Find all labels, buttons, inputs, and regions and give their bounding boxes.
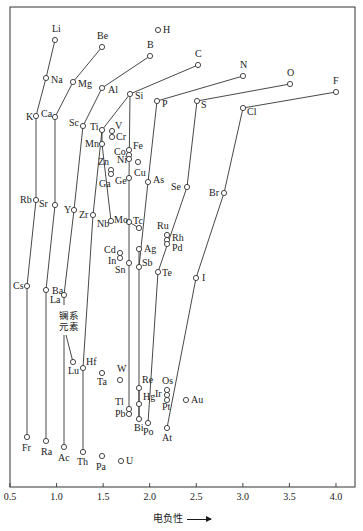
element-label: Zr	[79, 209, 89, 220]
lanthanide-annotation: 镧系元素	[57, 310, 81, 332]
element-label: Pa	[96, 461, 107, 472]
data-point-pd	[164, 241, 169, 246]
data-point-ac	[61, 444, 66, 449]
data-point-cd	[117, 250, 122, 255]
element-label: Cd	[104, 244, 116, 255]
data-point-bi	[136, 416, 141, 421]
element-label: Fe	[133, 140, 144, 151]
element-label: C	[195, 48, 202, 59]
data-point-la	[61, 292, 66, 297]
data-point-sc	[80, 123, 85, 128]
data-point-tl	[126, 406, 131, 411]
data-point-as	[145, 179, 150, 184]
data-point-sn	[126, 260, 131, 265]
x-tick-label: 1.5	[97, 491, 110, 502]
electronegativity-chart: HLiBeBCNOFNaMgAlSiPSClKCaScTiVCrMnFeCoNi…	[0, 0, 363, 531]
data-point-al	[99, 85, 104, 90]
element-label: Sr	[39, 198, 49, 209]
element-label: Nb	[97, 218, 109, 229]
element-label: Rb	[20, 194, 32, 205]
element-label: S	[201, 99, 207, 110]
series-line	[148, 84, 290, 423]
element-label: Ge	[115, 175, 127, 186]
element-label: Ca	[41, 108, 53, 119]
element-label: Ru	[157, 220, 169, 231]
data-point-pb	[126, 411, 131, 416]
data-point-u	[118, 458, 123, 463]
data-point-mn	[99, 141, 104, 146]
element-label: Cl	[247, 106, 257, 117]
data-point-zr	[90, 212, 95, 217]
data-point-po	[145, 420, 150, 425]
element-label: N	[240, 59, 247, 70]
data-point-s	[194, 98, 199, 103]
data-point-ca	[52, 114, 57, 119]
element-label: Ac	[58, 452, 70, 463]
data-point-te	[155, 269, 160, 274]
series-line	[83, 65, 198, 452]
data-point-b	[147, 53, 152, 58]
data-point-ti	[99, 127, 104, 132]
data-point-au	[183, 397, 188, 402]
data-point-cs	[24, 283, 29, 288]
element-label: Mn	[85, 138, 99, 149]
x-tick-label: 1.0	[50, 491, 63, 502]
element-label: Hf	[86, 356, 97, 367]
data-point-ru	[164, 232, 169, 237]
data-point-at	[164, 425, 169, 430]
data-point-ta	[99, 370, 104, 375]
element-label: B	[147, 39, 154, 50]
data-point-f	[333, 89, 338, 94]
data-point-c	[195, 62, 200, 67]
element-label: O	[287, 67, 294, 78]
data-point-i	[193, 275, 198, 280]
element-label: Ra	[41, 446, 53, 457]
data-point-w	[117, 377, 122, 382]
element-label: I	[202, 272, 205, 283]
data-point-os	[164, 387, 169, 392]
data-point-li	[52, 37, 57, 42]
data-point-n	[240, 73, 245, 78]
data-point-p	[154, 98, 159, 103]
element-label: Ag	[144, 243, 156, 254]
element-label: Pb	[115, 408, 126, 419]
data-point-ga	[108, 171, 113, 176]
data-point-h	[155, 27, 160, 32]
element-label: Al	[108, 84, 118, 95]
element-label: Pd	[172, 242, 183, 253]
element-label: Hg	[143, 391, 155, 402]
element-label: Na	[51, 74, 63, 85]
element-label: Sb	[142, 257, 153, 268]
element-label: W	[117, 363, 127, 374]
element-label: As	[153, 174, 164, 185]
arrow-right-icon	[187, 519, 211, 520]
element-label: Tc	[133, 215, 143, 226]
data-point-na	[43, 75, 48, 80]
series-line	[46, 47, 102, 441]
element-label: H	[163, 24, 170, 35]
element-label: Se	[171, 181, 182, 192]
element-label: La	[50, 294, 61, 305]
x-axis: 0.51.01.52.02.53.03.54.0	[4, 483, 342, 502]
data-point-hg	[136, 401, 141, 406]
x-tick-label: 3.0	[237, 491, 250, 502]
data-point-y	[71, 207, 76, 212]
element-label: Ta	[97, 376, 107, 387]
element-label: Cu	[134, 167, 146, 178]
element-label: Mg	[78, 78, 92, 89]
data-point-mg	[70, 79, 75, 84]
element-label: U	[126, 455, 134, 466]
data-point-ir	[164, 392, 169, 397]
x-tick-label: 0.5	[4, 491, 17, 502]
element-label: Te	[162, 267, 172, 278]
x-axis-label: 电负性	[0, 510, 363, 525]
data-point-fr	[24, 434, 29, 439]
lanthanide-connector	[66, 335, 73, 362]
data-point-lu	[70, 359, 75, 364]
x-tick-label: 3.5	[283, 491, 296, 502]
data-point-cl	[240, 105, 245, 110]
element-label: Fr	[22, 442, 32, 453]
element-label: At	[162, 432, 172, 443]
element-label: Ti	[90, 121, 99, 132]
x-tick-label: 4.0	[330, 491, 343, 502]
